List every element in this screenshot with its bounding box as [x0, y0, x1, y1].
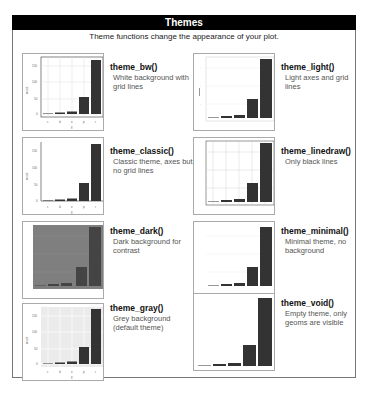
svg-text:count: count [25, 336, 29, 344]
theme-name: theme_light() [281, 62, 334, 72]
theme-description: Dark background for contrast [113, 237, 193, 255]
plot-theme-linedraw [193, 137, 275, 215]
svg-text:100: 100 [32, 330, 37, 334]
svg-text:50: 50 [34, 347, 38, 351]
theme-description: Grey background (default theme) [113, 314, 193, 332]
svg-text:c: c [47, 120, 49, 124]
plot-theme-gray: 150100500 cdepr fl count [22, 303, 104, 381]
svg-text:count: count [25, 86, 29, 94]
svg-text:50: 50 [34, 97, 38, 101]
theme-name: theme_classic() [110, 146, 174, 156]
plot-theme-light: --- [193, 53, 275, 131]
section-subtitle: Theme functions change the appearance of… [12, 32, 356, 41]
section-title: Themes [12, 15, 356, 30]
plot-theme-void [193, 293, 275, 371]
theme-name: theme_dark() [110, 226, 163, 236]
svg-text:fl: fl [71, 211, 73, 215]
svg-text:d: d [59, 370, 61, 374]
theme-name: theme_linedraw() [281, 146, 351, 156]
theme-description: Only black lines [285, 157, 365, 166]
svg-text:-: - [200, 102, 201, 106]
svg-text:0: 0 [36, 112, 38, 116]
theme-description: Empty theme, only geoms are visible [285, 309, 365, 327]
plot-theme-classic: 150100500 cdepr fl count [22, 137, 104, 215]
svg-text:fl: fl [71, 376, 73, 380]
svg-text:r: r [95, 370, 96, 374]
svg-text:0: 0 [36, 362, 38, 366]
theme-name: theme_gray() [110, 303, 163, 313]
theme-name: theme_bw() [110, 62, 157, 72]
plot-theme-dark [22, 221, 104, 299]
svg-text:p: p [83, 205, 85, 209]
theme-name: theme_minimal() [281, 226, 349, 236]
theme-description: White background with grid lines [113, 73, 193, 91]
theme-description: Light axes and grid lines [285, 73, 365, 91]
svg-text:150: 150 [32, 149, 37, 153]
svg-text:e: e [71, 120, 73, 124]
svg-text:d: d [59, 205, 61, 209]
plot-theme-bw: 150100500 cdepr fl count [22, 53, 104, 131]
svg-text:-: - [200, 84, 201, 88]
svg-text:fl: fl [71, 126, 73, 130]
svg-text:100: 100 [32, 80, 37, 84]
svg-text:r: r [95, 120, 96, 124]
svg-text:c: c [47, 370, 49, 374]
svg-text:e: e [71, 205, 73, 209]
svg-text:0: 0 [36, 199, 38, 203]
svg-text:150: 150 [32, 64, 37, 68]
svg-text:r: r [95, 205, 96, 209]
plot-theme-minimal [193, 221, 275, 299]
svg-text:d: d [59, 120, 61, 124]
theme-description: Classic theme, axes but no grid lines [113, 157, 193, 175]
svg-text:p: p [83, 120, 85, 124]
svg-text:count: count [25, 172, 29, 180]
theme-name: theme_void() [281, 298, 334, 308]
svg-text:50: 50 [34, 183, 38, 187]
svg-text:150: 150 [32, 314, 37, 318]
svg-text:c: c [47, 205, 49, 209]
svg-text:100: 100 [32, 166, 37, 170]
svg-text:p: p [83, 370, 85, 374]
svg-text:-: - [200, 66, 201, 70]
theme-description: Minimal theme, no background [285, 237, 365, 255]
svg-text:e: e [71, 370, 73, 374]
